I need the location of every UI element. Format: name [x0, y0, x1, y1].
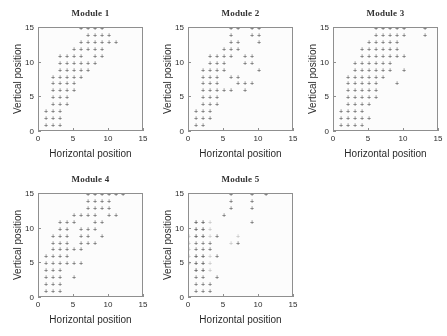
data-point: +: [193, 295, 200, 297]
data-point: +: [57, 218, 64, 225]
y-tick: [333, 131, 336, 132]
data-point: +: [228, 204, 235, 211]
x-tick: [143, 128, 144, 131]
data-point: +: [43, 129, 50, 131]
data-point: +: [401, 66, 408, 73]
data-point: +: [401, 28, 408, 32]
data-point: +: [249, 218, 256, 225]
data-point: +: [256, 28, 263, 32]
data-point-faint: +: [235, 232, 242, 239]
x-axis-label: Horizontal position: [188, 148, 293, 159]
y-axis-label: Vertical position: [12, 27, 23, 131]
data-point: +: [401, 52, 408, 59]
data-point: +: [338, 108, 345, 115]
data-point: +: [366, 66, 373, 73]
panel-title: Module 4: [38, 174, 143, 184]
data-point: +: [78, 73, 85, 80]
data-point: +: [366, 87, 373, 94]
data-point: +: [92, 194, 99, 198]
data-point: +: [200, 253, 207, 260]
data-point: +: [85, 232, 92, 239]
data-point: +: [359, 59, 366, 66]
x-tick: [438, 128, 439, 131]
data-point: +: [200, 260, 207, 267]
x-tick-label: 0: [186, 134, 190, 143]
y-tick: [38, 228, 41, 229]
data-point: +: [50, 239, 57, 246]
data-point: +: [214, 232, 221, 239]
data-point: +: [235, 38, 242, 45]
data-point: +: [228, 87, 235, 94]
data-point: +: [50, 260, 57, 267]
data-point: +: [85, 31, 92, 38]
data-point: +: [78, 246, 85, 253]
data-point: +: [345, 87, 352, 94]
x-tick: [223, 128, 224, 131]
data-point: +: [99, 194, 106, 198]
data-point: +: [235, 28, 242, 32]
data-point: +: [228, 197, 235, 204]
data-point: +: [352, 87, 359, 94]
data-point: +: [359, 122, 366, 129]
data-point: +: [200, 101, 207, 108]
data-point: +: [207, 87, 214, 94]
data-point: +: [235, 80, 242, 87]
data-point: +: [200, 281, 207, 288]
data-point: +: [214, 101, 221, 108]
data-point: +: [57, 225, 64, 232]
x-tick-label: 15: [289, 300, 298, 309]
data-point: +: [71, 87, 78, 94]
x-tick-label: 5: [221, 300, 225, 309]
data-point: +: [50, 101, 57, 108]
data-point: +: [43, 295, 50, 297]
data-point: +: [228, 52, 235, 59]
data-point: +: [57, 260, 64, 267]
data-point: +: [99, 204, 106, 211]
data-point: +: [387, 38, 394, 45]
data-point: +: [242, 87, 249, 94]
data-point: +: [78, 260, 85, 267]
data-point-faint: +: [207, 218, 214, 225]
plot-area: ++++++++++++++++++++++++++++++++++++++++…: [39, 28, 142, 130]
data-point: +: [193, 267, 200, 274]
data-point: +: [99, 232, 106, 239]
data-point: +: [242, 80, 249, 87]
data-point: +: [85, 211, 92, 218]
data-point: +: [373, 38, 380, 45]
data-point: +: [214, 253, 221, 260]
data-point: +: [50, 295, 57, 297]
x-tick-label: 0: [186, 300, 190, 309]
data-point: +: [200, 122, 207, 129]
x-tick: [108, 294, 109, 297]
data-point: +: [373, 87, 380, 94]
y-axis-label: Vertical position: [162, 27, 173, 131]
x-tick-label: 10: [399, 134, 408, 143]
x-tick: [368, 128, 369, 131]
data-point: +: [228, 31, 235, 38]
data-point: +: [92, 45, 99, 52]
data-point: +: [235, 73, 242, 80]
plot-area: ++++++++++++++++++++++++++++++++++++++++…: [39, 194, 142, 296]
data-point: +: [43, 288, 50, 295]
data-point: +: [71, 66, 78, 73]
data-point: +: [193, 281, 200, 288]
data-point: +: [113, 194, 120, 198]
data-point: +: [359, 115, 366, 122]
data-point: +: [207, 108, 214, 115]
data-point: +: [43, 267, 50, 274]
data-point: +: [92, 218, 99, 225]
y-tick: [188, 131, 191, 132]
data-point: +: [92, 52, 99, 59]
x-tick-label: 10: [254, 300, 263, 309]
data-point: +: [249, 204, 256, 211]
data-point: +: [193, 288, 200, 295]
data-point: +: [359, 80, 366, 87]
data-point: +: [380, 28, 387, 32]
data-point: +: [214, 73, 221, 80]
data-point: +: [200, 267, 207, 274]
data-point: +: [214, 52, 221, 59]
data-point: +: [359, 52, 366, 59]
data-point-faint: +: [207, 253, 214, 260]
data-point: +: [366, 101, 373, 108]
data-point: +: [71, 59, 78, 66]
